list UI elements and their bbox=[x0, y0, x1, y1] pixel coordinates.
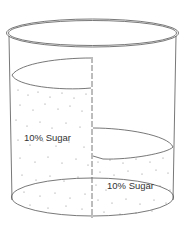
beaker-rim-outer bbox=[7, 19, 179, 47]
beaker-diagram bbox=[0, 0, 185, 226]
right-liquid-surface bbox=[93, 128, 173, 159]
left-liquid-surface bbox=[12, 58, 91, 89]
beaker-wall-left bbox=[9, 36, 12, 200]
beaker-rim-inner bbox=[9, 21, 177, 46]
right-compartment-label: 10% Sugar bbox=[107, 180, 154, 191]
beaker-wall-right bbox=[173, 36, 176, 200]
left-solution-dots bbox=[15, 89, 88, 209]
left-compartment-label: 10% Sugar bbox=[24, 132, 71, 143]
